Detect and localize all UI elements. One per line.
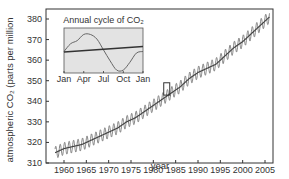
inset-x-tick-label: Jan <box>136 74 151 84</box>
co2-chart: 310320330340350360370380 196019651970197… <box>0 0 289 179</box>
y-axis-label: atmospheric CO₂ (parts per million <box>4 17 15 162</box>
y-tick-label: 320 <box>27 137 42 147</box>
y-tick-label: 350 <box>27 76 42 86</box>
x-tick-label: 1970 <box>99 165 119 175</box>
inset-annual-cycle: Annual cycle of CO₂JanAprJulOctJan <box>56 12 150 84</box>
x-tick-label: 1960 <box>54 165 74 175</box>
y-tick-label: 380 <box>27 14 42 24</box>
x-tick-label: 1990 <box>188 165 208 175</box>
y-tick-label: 340 <box>27 96 42 106</box>
x-tick-label: 1975 <box>121 165 141 175</box>
inset-x-tick-label: Jul <box>98 74 110 84</box>
inset-x-tick-label: Jan <box>57 74 72 84</box>
inset-x-tick-label: Oct <box>116 74 131 84</box>
x-tick-label: 2000 <box>233 165 253 175</box>
inset-title: Annual cycle of CO₂ <box>63 15 144 25</box>
inset-x-tick-label: Apr <box>77 74 91 84</box>
x-tick-label: 1995 <box>210 165 230 175</box>
y-tick-label: 330 <box>27 117 42 127</box>
y-tick-label: 370 <box>27 35 42 45</box>
x-tick-label: 2005 <box>255 165 275 175</box>
y-tick-label: 360 <box>27 55 42 65</box>
x-tick-label: 1965 <box>76 165 96 175</box>
y-tick-label: 310 <box>27 158 42 168</box>
x-axis-label: year <box>151 160 169 171</box>
